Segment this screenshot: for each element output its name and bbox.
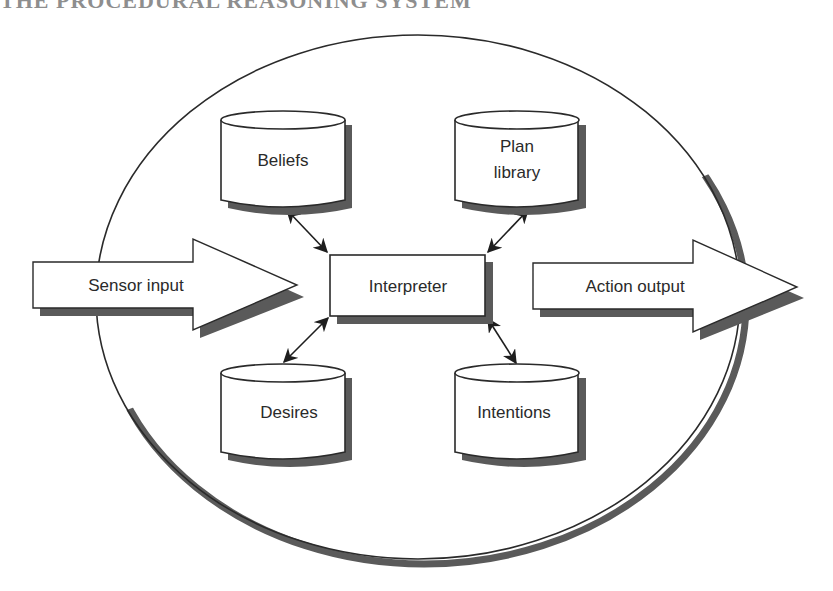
action-output-label: Action output — [585, 277, 685, 296]
plan-library-label-line2: library — [494, 163, 541, 182]
desires-interpreter-connector — [284, 318, 328, 362]
interpreter-label: Interpreter — [369, 277, 448, 296]
action-output-arrow: Action output — [533, 240, 804, 340]
beliefs-interpreter-connector — [287, 210, 327, 252]
diagram-canvas: Beliefs Plan library Desires Intentions … — [0, 0, 833, 591]
plan-library-interpreter-connector — [488, 210, 528, 252]
intentions-label: Intentions — [477, 403, 551, 422]
intentions-interpreter-connector — [488, 319, 516, 363]
beliefs-store: Beliefs — [221, 111, 352, 215]
desires-label: Desires — [260, 403, 318, 422]
intentions-store: Intentions — [455, 364, 586, 467]
plan-library-label-line1: Plan — [500, 137, 534, 156]
plan-library-store: Plan library — [455, 111, 586, 215]
sensor-input-arrow: Sensor input — [33, 239, 304, 338]
beliefs-label: Beliefs — [257, 151, 308, 170]
desires-store: Desires — [221, 364, 352, 467]
sensor-input-label: Sensor input — [88, 276, 184, 295]
interpreter-box: Interpreter — [330, 255, 493, 324]
